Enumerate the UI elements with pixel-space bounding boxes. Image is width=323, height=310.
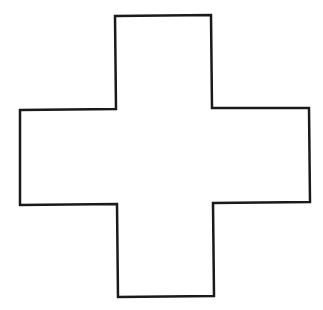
- cross-diagram: [0, 0, 323, 310]
- cross-outline: [20, 15, 310, 297]
